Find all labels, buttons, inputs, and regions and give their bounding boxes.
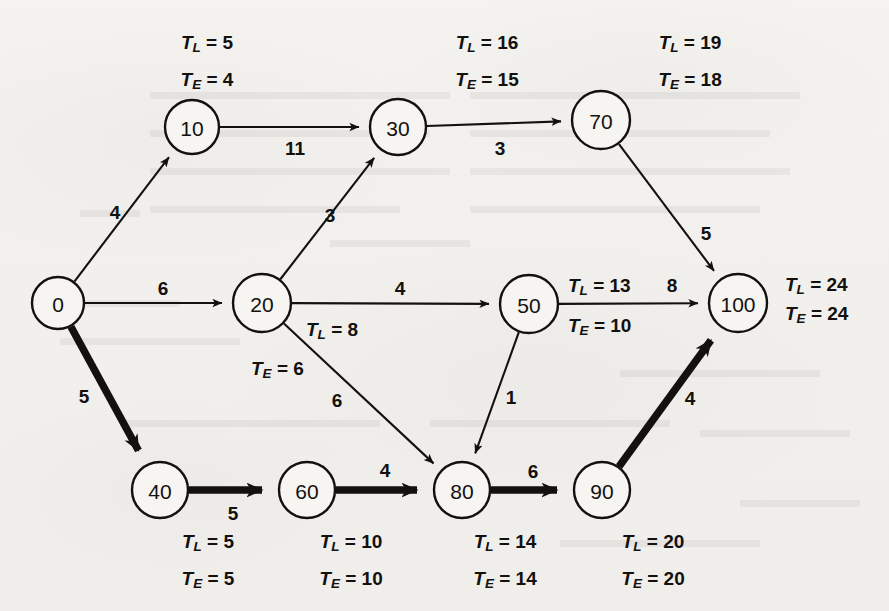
time-label-TL-node-40: TL = 5 [182, 531, 235, 554]
edge-30-to-70 [427, 121, 561, 126]
time-label-TE-node-80: TE = 14 [473, 568, 537, 591]
node-20[interactable]: 20 [233, 274, 291, 332]
node-0[interactable]: 0 [32, 277, 84, 329]
edge-weight-20-50: 4 [395, 278, 406, 299]
node-100[interactable]: 100 [709, 274, 767, 332]
time-label-TE-node-50: TE = 10 [568, 315, 631, 338]
node-30[interactable]: 30 [370, 99, 426, 155]
edge-50-to-100 [559, 303, 698, 304]
node-60[interactable]: 60 [279, 462, 335, 518]
edge-weight-40-60: 5 [228, 503, 239, 524]
node-40[interactable]: 40 [132, 462, 188, 518]
node-label-90: 90 [590, 480, 613, 503]
time-label-TE-node-20: TE = 6 [251, 358, 304, 381]
edge-layer [71, 121, 714, 490]
time-label-TE-node-60: TE = 10 [319, 568, 382, 591]
time-label-TE-node-40: TE = 5 [182, 568, 235, 591]
node-label-10: 10 [180, 117, 203, 140]
edge-weight-50-80: 1 [506, 387, 517, 408]
node-10[interactable]: 10 [165, 100, 219, 154]
edge-weight-90-100: 4 [685, 388, 696, 409]
edge-0-to-10 [74, 157, 169, 281]
node-label-0: 0 [52, 293, 64, 316]
time-label-TL-node-100: TL = 24 [785, 274, 848, 297]
network-diagram-page: 0102030405060708090100 4651134635184564 … [0, 0, 889, 611]
edge-20-to-80 [284, 323, 434, 463]
node-label-80: 80 [450, 480, 473, 503]
time-label-TE-node-90: TE = 20 [621, 568, 684, 591]
time-label-TL-node-30: TL = 16 [456, 32, 519, 55]
time-label-TE-node-100: TE = 24 [785, 303, 849, 326]
node-80[interactable]: 80 [434, 462, 490, 518]
edge-weight-10-30: 11 [285, 138, 306, 159]
time-label-TL-node-20: TL = 8 [306, 319, 358, 342]
edge-weight-0-10: 4 [110, 202, 121, 223]
node-50[interactable]: 50 [500, 275, 558, 333]
time-label-TE-node-30: TE = 15 [455, 69, 519, 92]
time-label-TL-node-10: TL = 5 [181, 32, 234, 55]
time-label-TL-node-90: TL = 20 [622, 531, 685, 554]
edge-weight-0-20: 6 [158, 278, 169, 299]
time-label-TL-node-70: TL = 19 [659, 32, 722, 55]
time-label-TE-node-10: TE = 4 [181, 69, 234, 92]
edge-weight-20-30: 3 [325, 205, 336, 226]
edge-20-to-50 [292, 303, 489, 304]
edge-weight-20-80: 6 [332, 390, 343, 411]
node-label-60: 60 [295, 480, 318, 503]
edge-weight-0-40: 5 [79, 386, 90, 407]
edge-weight-70-100: 5 [701, 223, 712, 244]
pert-network-graph: 0102030405060708090100 4651134635184564 … [0, 0, 889, 611]
edge-90-to-100 [619, 340, 711, 466]
time-label-TE-node-70: TE = 18 [658, 69, 721, 92]
node-70[interactable]: 70 [572, 91, 630, 149]
node-90[interactable]: 90 [574, 462, 630, 518]
edge-70-to-100 [619, 144, 714, 271]
node-label-50: 50 [517, 294, 540, 317]
edge-weight-50-100: 8 [667, 275, 678, 296]
node-label-20: 20 [250, 293, 273, 316]
node-label-70: 70 [589, 110, 612, 133]
edge-weight-30-70: 3 [495, 138, 506, 159]
edge-weight-80-90: 6 [528, 461, 539, 482]
node-label-100: 100 [720, 293, 755, 316]
time-label-TL-node-60: TL = 10 [320, 531, 383, 554]
time-label-TL-node-50: TL = 13 [568, 275, 631, 298]
node-label-30: 30 [386, 117, 409, 140]
edge-weight-60-80: 4 [380, 460, 391, 481]
time-label-TL-node-80: TL = 14 [474, 531, 537, 554]
node-label-40: 40 [148, 480, 171, 503]
